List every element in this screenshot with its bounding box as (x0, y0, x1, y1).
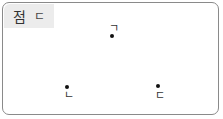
point-label-digeut: ㄷ (155, 90, 165, 101)
point-dot-digeut (156, 84, 160, 88)
header-title-letter: ㄷ (34, 7, 46, 24)
header-title-word: 점 (13, 6, 27, 26)
point-label-giyeok: ㄱ (109, 23, 119, 34)
point-label-nieun: ㄴ (64, 90, 74, 101)
header-tab: 점 ㄷ (4, 4, 54, 28)
